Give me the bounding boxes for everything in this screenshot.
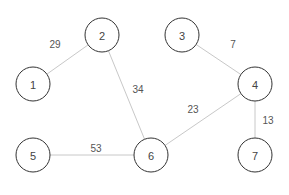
edge-4-6 xyxy=(151,84,255,155)
node-label: 1 xyxy=(30,79,36,91)
weight-label-1-2: 29 xyxy=(49,39,61,50)
node-label: 5 xyxy=(30,150,36,162)
node-1[interactable]: 1 xyxy=(16,67,50,101)
node-3[interactable]: 3 xyxy=(165,18,199,52)
node-6[interactable]: 6 xyxy=(134,138,168,172)
node-7[interactable]: 7 xyxy=(238,138,272,172)
node-4[interactable]: 4 xyxy=(238,67,272,101)
node-2[interactable]: 2 xyxy=(85,18,119,52)
node-label: 3 xyxy=(179,30,185,42)
weight-label-4-6: 23 xyxy=(187,104,199,115)
node-label: 6 xyxy=(148,150,154,162)
node-label: 2 xyxy=(99,30,105,42)
node-label: 7 xyxy=(252,150,258,162)
graph-diagram: 29 34 7 23 13 53 1 2 3 4 5 6 7 xyxy=(0,0,289,195)
edge-2-6 xyxy=(102,35,151,155)
edges xyxy=(33,35,255,155)
node-5[interactable]: 5 xyxy=(16,138,50,172)
edge-weights: 29 34 7 23 13 53 xyxy=(49,39,274,154)
weight-label-4-7: 13 xyxy=(262,115,274,126)
node-label: 4 xyxy=(252,79,258,91)
weight-label-2-6: 34 xyxy=(132,84,144,95)
weight-label-3-4: 7 xyxy=(230,39,236,50)
weight-label-5-6: 53 xyxy=(90,143,102,154)
